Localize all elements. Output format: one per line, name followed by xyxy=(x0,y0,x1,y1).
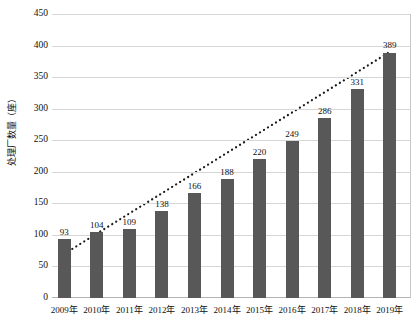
bar-value-label: 286 xyxy=(312,107,338,116)
bar xyxy=(188,193,201,298)
bar xyxy=(90,232,103,298)
bar xyxy=(351,89,364,298)
y-tick-label: 100 xyxy=(20,230,48,240)
y-tick-label: 200 xyxy=(20,167,48,177)
bar xyxy=(221,179,234,298)
bar-value-label: 389 xyxy=(377,41,403,50)
bar-value-label: 249 xyxy=(279,130,305,139)
plot-area: 93104109138166188220249286331389 xyxy=(52,14,411,298)
gridline xyxy=(52,14,410,15)
y-axis-tick-labels: 050100150200250300350400450 xyxy=(20,0,48,334)
bar-value-label: 104 xyxy=(84,221,110,230)
bar xyxy=(123,229,136,298)
y-tick-label: 250 xyxy=(20,135,48,145)
bar xyxy=(318,118,331,298)
bar-value-label: 188 xyxy=(214,168,240,177)
bar-value-label: 138 xyxy=(149,200,175,209)
bar xyxy=(286,141,299,298)
bar-value-label: 93 xyxy=(51,228,77,237)
y-tick-label: 50 xyxy=(20,261,48,271)
bar xyxy=(155,211,168,298)
bar-value-label: 220 xyxy=(247,148,273,157)
bar-value-label: 109 xyxy=(116,218,142,227)
bar-value-label: 166 xyxy=(181,182,207,191)
y-tick-label: 0 xyxy=(20,293,48,303)
gridline xyxy=(52,46,410,47)
y-tick-label: 300 xyxy=(20,104,48,114)
y-tick-label: 400 xyxy=(20,41,48,51)
y-tick-label: 150 xyxy=(20,198,48,208)
bar xyxy=(58,239,71,298)
x-axis-tick-labels: 2009年2010年2011年2012年2013年2014年2015年2016年… xyxy=(52,303,410,325)
y-axis-title: 处理厂数量（座） xyxy=(5,75,18,185)
bar xyxy=(383,53,396,299)
bar-value-label: 331 xyxy=(344,78,370,87)
y-tick-label: 350 xyxy=(20,72,48,82)
y-tick-label: 450 xyxy=(20,9,48,19)
bar-chart: 处理厂数量（座） 050100150200250300350400450 931… xyxy=(0,0,418,334)
bar xyxy=(253,159,266,298)
x-tick-label: 2019年 xyxy=(370,303,410,316)
